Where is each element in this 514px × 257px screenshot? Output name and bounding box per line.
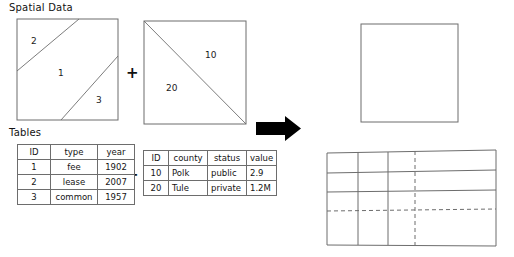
column-header-value: value [247,151,277,166]
column-header-year: year [98,145,135,160]
column-header-type: type [51,145,98,160]
cell-id: 1 [18,160,51,175]
process-arrow [256,116,301,141]
result-square-outline [361,24,458,122]
cell-county: Polk [169,166,208,181]
cell-year: 1902 [98,160,135,175]
result-row-line-2 [327,190,496,192]
cell-status: public [208,166,247,181]
plus-operator-spatial: + [126,66,139,81]
cell-year: 2007 [98,175,135,190]
cell-year: 1957 [98,190,135,205]
cell-id: 3 [18,190,51,205]
parcel-polygons-group [17,19,118,120]
diagram-canvas: Spatial Data Tables [0,0,514,257]
diagram-vectors [0,0,514,257]
cell-id: 10 [144,166,169,181]
column-header-id: ID [18,145,51,160]
county-divider-line [144,21,246,124]
parcels-table: ID type year 1 fee 1902 2 lease 2007 3 c… [17,144,135,205]
column-header-status: status [208,151,247,166]
cell-county: Tule [169,181,208,196]
county-polygons-group [144,21,246,124]
cell-type: lease [51,175,98,190]
parcel-region-label-1: 1 [58,68,64,78]
parcel-divider-line-2 [61,56,118,120]
parcel-square-outline [17,19,118,120]
parcel-region-label-3: 3 [96,95,102,105]
table-row: 20 Tule private 1.2M [144,181,277,196]
counties-table: ID county status value 10 Polk public 2.… [143,150,277,196]
parcel-divider-line-1 [17,19,79,71]
result-table-grid [327,150,496,246]
table-header-row: ID type year [18,145,135,160]
cell-type: common [51,190,98,205]
table-row: 1 fee 1902 [18,160,135,175]
column-header-county: county [169,151,208,166]
cell-id: 2 [18,175,51,190]
table-header-row: ID county status value [144,151,277,166]
cell-type: fee [51,160,98,175]
overlay-result-group [361,24,458,122]
column-header-id: ID [144,151,169,166]
cell-id: 20 [144,181,169,196]
result-row-line-dashed [327,209,496,211]
table-row: 2 lease 2007 [18,175,135,190]
parcel-region-label-2: 2 [31,36,37,46]
cell-value: 2.9 [247,166,277,181]
table-row: 3 common 1957 [18,190,135,205]
county-region-label-10: 10 [205,50,216,60]
result-row-line-1 [327,170,496,173]
result-table-outline [327,150,496,246]
county-region-label-20: 20 [166,83,177,93]
cell-value: 1.2M [247,181,277,196]
table-row: 10 Polk public 2.9 [144,166,277,181]
cell-status: private [208,181,247,196]
